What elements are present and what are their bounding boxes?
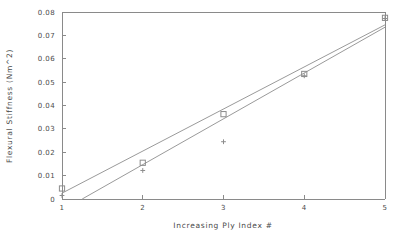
plus-marker [221,139,226,144]
data-markers [59,15,387,198]
tick-marks [62,12,385,199]
x-tick-label: 1 [60,204,65,212]
y-tick-label: 0.05 [38,79,55,87]
plus-marker [60,193,65,198]
x-tick-label: 2 [140,204,145,212]
y-tick-labels: 00.010.020.030.040.050.060.070.08 [38,9,55,204]
y-tick-label: 0.08 [38,9,55,17]
plus-marker [140,168,145,173]
x-axis-title: Increasing Ply Index # [173,221,272,230]
y-tick-label: 0.06 [38,55,55,63]
y-tick-label: 0.07 [38,32,55,40]
y-tick-label: 0.01 [38,172,55,180]
y-axis-title: Flexural Stiffness (Nm^2) [5,49,14,163]
upper-fit-line [62,25,385,193]
lower-fit-line [82,27,385,199]
chart-figure: 00.010.020.030.040.050.060.070.08 12345 … [0,0,404,234]
x-tick-labels: 12345 [60,204,388,212]
x-tick-label: 5 [383,204,388,212]
axes [62,12,385,199]
y-tick-label: 0.02 [38,149,55,157]
y-tick-label: 0.04 [38,102,55,110]
square-marker [221,112,226,117]
x-tick-label: 3 [221,204,226,212]
scatter-plot: 00.010.020.030.040.050.060.070.08 12345 … [0,0,404,234]
x-tick-label: 4 [302,204,307,212]
y-tick-label: 0 [50,196,55,204]
y-tick-label: 0.03 [38,125,55,133]
